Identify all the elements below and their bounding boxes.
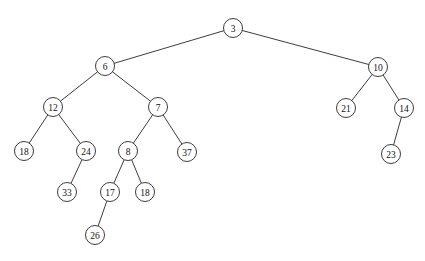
tree-node-label: 12 (48, 103, 58, 113)
tree-node-label: 26 (90, 231, 100, 241)
binary-tree-diagram: 3610127211418248372333171826 (0, 0, 425, 261)
tree-edge (163, 115, 182, 144)
tree-node: 12 (44, 98, 63, 117)
tree-node: 26 (86, 226, 105, 245)
tree-node-label: 17 (105, 188, 115, 198)
tree-node: 3 (224, 19, 243, 38)
tree-node-label: 8 (126, 147, 131, 157)
tree-node-label: 18 (140, 188, 150, 198)
tree-edge (113, 72, 151, 101)
tree-edge (59, 115, 81, 144)
tree-node: 24 (77, 142, 96, 161)
tree-node: 37 (178, 143, 197, 162)
tree-node-layer: 3610127211418248372333171826 (15, 19, 414, 245)
tree-edge (98, 201, 107, 226)
tree-edge (133, 115, 152, 143)
tree-edge (60, 72, 97, 101)
tree-node: 21 (337, 99, 356, 118)
tree-node: 7 (149, 98, 168, 117)
tree-node: 10 (369, 58, 388, 77)
tree-node-label: 10 (373, 63, 383, 73)
tree-edge (132, 160, 142, 183)
tree-edge (114, 31, 224, 64)
tree-node: 33 (58, 183, 77, 202)
tree-node-label: 24 (81, 147, 91, 157)
tree-edge (352, 74, 372, 100)
tree-edge (29, 115, 48, 143)
tree-node-label: 14 (399, 104, 409, 114)
tree-node-label: 7 (156, 103, 161, 113)
tree-node: 23 (382, 145, 401, 164)
tree-node: 6 (96, 57, 115, 76)
tree-node-label: 3 (231, 24, 236, 34)
tree-edge (394, 117, 402, 145)
tree-node: 18 (136, 183, 155, 202)
tree-node-label: 6 (103, 62, 108, 72)
tree-node: 17 (101, 183, 120, 202)
figure-page: Figure 12.3 Result of Unmapping minimum … (0, 0, 425, 261)
tree-edge (114, 160, 124, 184)
tree-node-label: 18 (19, 147, 29, 157)
tree-node-label: 23 (386, 150, 396, 160)
tree-edge-layer (29, 30, 401, 226)
tree-node: 8 (119, 142, 138, 161)
tree-edge (242, 30, 369, 64)
tree-node-label: 37 (182, 148, 192, 158)
tree-node-label: 33 (62, 188, 72, 198)
tree-node-label: 21 (341, 104, 351, 114)
tree-edge (71, 160, 82, 184)
tree-node: 14 (395, 99, 414, 118)
tree-node: 18 (15, 142, 34, 161)
tree-edge (383, 75, 399, 100)
